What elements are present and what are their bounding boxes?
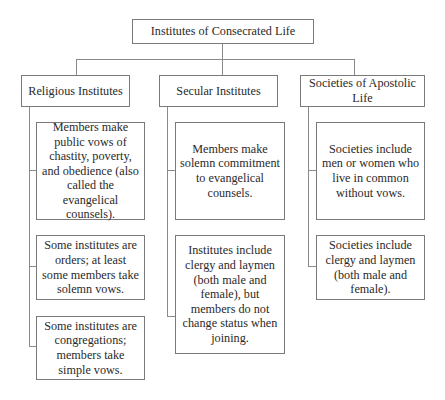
note-text: Some institutes are orders; at least som… [41, 238, 140, 296]
branch-connector-societies [354, 59, 355, 75]
societies-note-1: Societies include men or women who live … [316, 122, 425, 220]
secular-spine [167, 106, 168, 317]
religious-tick-1 [29, 170, 36, 171]
religious-note-3: Some institutes are congregations; membe… [36, 316, 145, 380]
root-node: Institutes of Consecrated Life [132, 19, 314, 44]
secular-tick-2 [167, 316, 175, 317]
religious-tick-2 [29, 266, 36, 267]
branch-religious-institutes: Religious Institutes [21, 75, 130, 107]
secular-note-1: Members make solemn commitment to evange… [175, 122, 285, 220]
note-text: Members make solemn commitment to evange… [180, 142, 280, 200]
secular-note-2: Institutes include clergy and laymen (bo… [175, 235, 285, 354]
societies-note-2: Societies include clergy and laymen (bot… [316, 235, 425, 300]
religious-spine [29, 106, 30, 346]
branch-label: Secular Institutes [176, 84, 260, 99]
societies-tick-1 [308, 170, 316, 171]
religious-tick-3 [29, 346, 36, 347]
societies-spine [308, 106, 309, 266]
note-text: Members make public vows of chastity, po… [41, 120, 140, 222]
branch-connector [76, 59, 355, 60]
branch-connector-secular [222, 59, 223, 75]
note-text: Societies include men or women who live … [321, 142, 420, 200]
note-text: Institutes include clergy and laymen (bo… [180, 243, 280, 345]
root-label: Institutes of Consecrated Life [151, 24, 296, 39]
religious-note-1: Members make public vows of chastity, po… [36, 122, 145, 220]
branch-connector-religious [76, 59, 77, 75]
societies-tick-2 [308, 266, 316, 267]
branch-societies-apostolic-life: Societies of Apostolic Life [300, 75, 425, 107]
branch-label: Religious Institutes [28, 84, 122, 99]
secular-tick-1 [167, 170, 175, 171]
note-text: Societies include clergy and laymen (bot… [321, 238, 420, 296]
note-text: Some institutes are congregations; membe… [41, 319, 140, 377]
branch-label: Societies of Apostolic Life [305, 76, 420, 105]
root-connector [222, 43, 223, 59]
branch-secular-institutes: Secular Institutes [159, 75, 278, 107]
religious-note-2: Some institutes are orders; at least som… [36, 235, 145, 300]
